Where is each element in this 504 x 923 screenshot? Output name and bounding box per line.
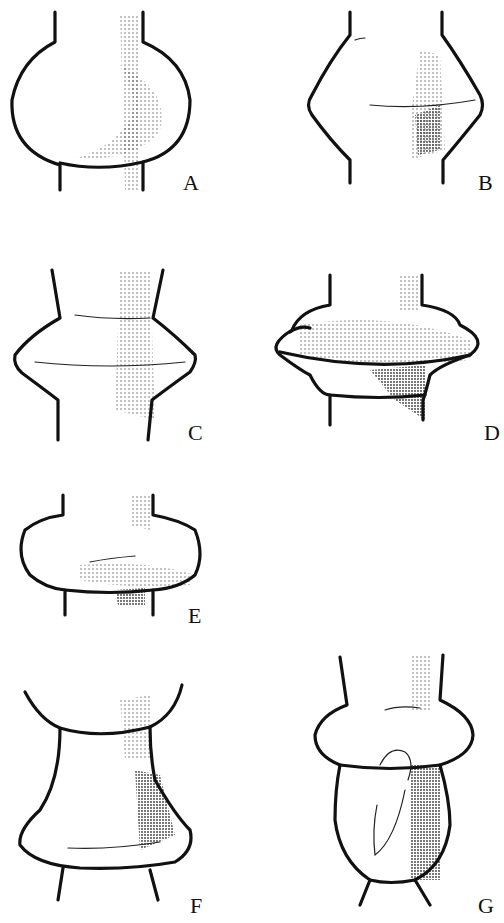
panel-label-e: E: [188, 603, 201, 629]
panel-label-b: B: [478, 170, 493, 196]
panel-label-d: D: [484, 420, 500, 446]
panel-label-c: C: [188, 420, 203, 446]
knob-shapes-figure: [0, 0, 504, 923]
panel-label-g: G: [478, 893, 494, 919]
panel-b-drawing: [309, 12, 483, 183]
panel-a-drawing: [12, 12, 190, 190]
panel-label-f: F: [190, 893, 202, 919]
panel-label-a: A: [183, 170, 199, 196]
panel-d-drawing: [276, 275, 478, 425]
panel-e-drawing: [21, 495, 200, 615]
panel-f-drawing: [20, 685, 191, 900]
panel-c-drawing: [15, 270, 196, 440]
panel-g-drawing: [315, 655, 473, 905]
